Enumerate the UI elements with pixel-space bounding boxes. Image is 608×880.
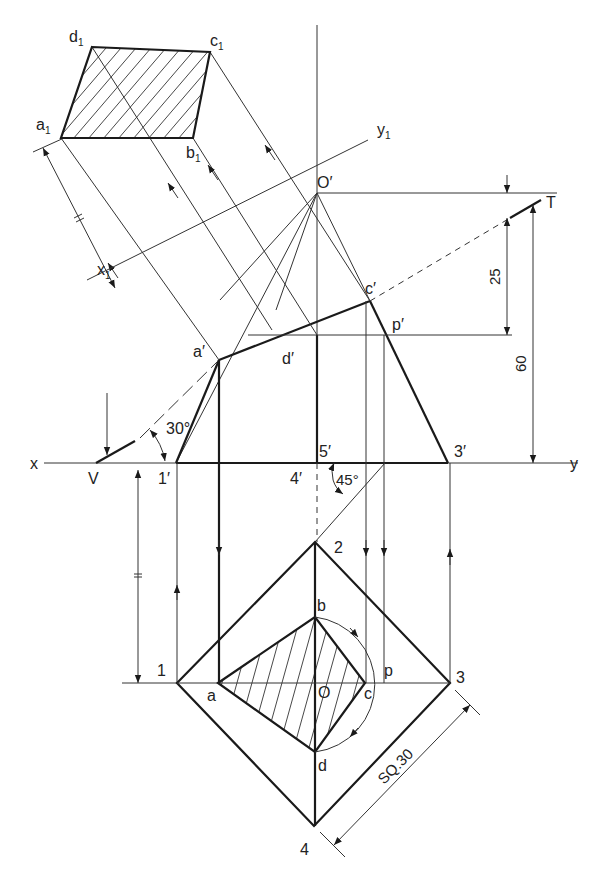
label-corner-1: 1 — [157, 662, 166, 679]
label-1-prime: 1′ — [158, 470, 170, 487]
label-corner-3: 3 — [456, 669, 465, 686]
label-corner-4: 4 — [300, 841, 309, 858]
label-p: p — [384, 662, 393, 679]
label-y: y — [570, 455, 578, 472]
projection-drawing: x y V T 30° O′ 1′ 4′ 5′ 3′ a′ d′ c′ p′ 1… — [0, 0, 608, 880]
label-t: T — [546, 194, 556, 211]
label-y1: y1 — [377, 121, 391, 141]
label-v: V — [88, 470, 99, 487]
label-a1: a1 — [36, 116, 51, 136]
dimension-sq30: SQ.30 — [374, 745, 416, 787]
label-c-prime: c′ — [365, 280, 376, 297]
label-3-prime: 3′ — [454, 443, 466, 460]
label-a-prime: a′ — [193, 343, 205, 360]
label-d-prime: d′ — [282, 350, 294, 367]
auxiliary-projectors — [61, 47, 370, 360]
label-apex-o-prime: O′ — [317, 174, 332, 191]
label-c1: c1 — [210, 32, 224, 52]
label-d: d — [318, 757, 327, 774]
dimension-45deg: 45° — [336, 471, 359, 488]
label-p-prime: p′ — [392, 316, 404, 333]
label-x: x — [30, 455, 38, 472]
dimension-25: 25 — [486, 268, 503, 285]
dimension-60: 60 — [512, 355, 529, 372]
label-4-prime: 4′ — [290, 470, 302, 487]
label-5-prime: 5′ — [319, 443, 331, 460]
label-corner-2: 2 — [334, 539, 343, 556]
label-30deg: 30° — [166, 420, 190, 437]
label-a: a — [207, 687, 216, 704]
true-shape-section — [0, 20, 295, 160]
equal-distance-dimension — [122, 470, 177, 683]
label-c: c — [364, 685, 372, 702]
drawing-canvas: x y V T 30° O′ 1′ 4′ 5′ 3′ a′ d′ c′ p′ 1… — [0, 0, 608, 880]
label-center-o: O — [318, 684, 330, 701]
base-size-dimension — [320, 690, 480, 857]
cutting-plane-vt — [96, 200, 541, 463]
label-d1: d1 — [69, 28, 84, 48]
label-b: b — [317, 597, 326, 614]
